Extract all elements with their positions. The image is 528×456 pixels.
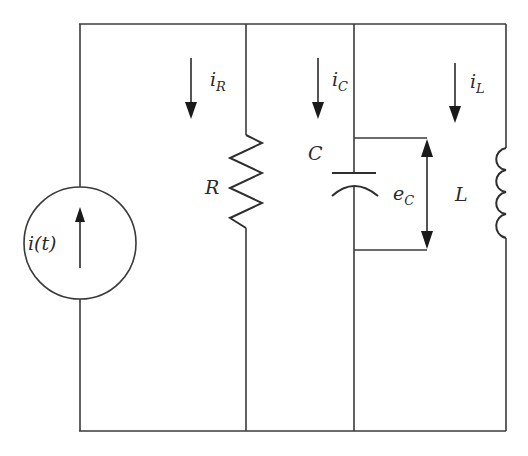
capacitor-curved-plate bbox=[332, 186, 378, 196]
current-source: i(t) bbox=[24, 187, 136, 299]
resistor-label: R bbox=[204, 176, 219, 198]
il-label: iL bbox=[470, 70, 485, 96]
up-arrow-icon bbox=[75, 207, 85, 222]
down-arrow-icon bbox=[185, 102, 197, 119]
inductor: L bbox=[454, 148, 506, 238]
inductor-label: L bbox=[454, 183, 468, 205]
inductor-coil bbox=[496, 148, 506, 238]
inductor-current-indicator: iL bbox=[449, 63, 485, 123]
ic-label: iC bbox=[332, 68, 348, 94]
circuit-wires bbox=[79, 24, 506, 431]
capacitor-voltage-indicator: eC bbox=[393, 139, 433, 249]
down-arrow-icon bbox=[312, 102, 324, 119]
resistor: R bbox=[204, 135, 262, 228]
ir-label: iR bbox=[210, 68, 226, 94]
up-arrow-icon bbox=[421, 139, 433, 157]
ec-label: eC bbox=[393, 182, 414, 208]
capacitor: C bbox=[308, 142, 378, 196]
source-label: i(t) bbox=[28, 232, 57, 254]
parallel-rlc-circuit-diagram: i(t) R iR C iC eC L iL bbox=[0, 0, 528, 456]
resistor-zigzag bbox=[230, 135, 262, 228]
resistor-current-indicator: iR bbox=[185, 58, 226, 119]
down-arrow-icon bbox=[449, 106, 461, 123]
capacitor-current-indicator: iC bbox=[312, 58, 348, 119]
down-arrow-icon bbox=[421, 231, 433, 249]
capacitor-label: C bbox=[308, 142, 323, 164]
